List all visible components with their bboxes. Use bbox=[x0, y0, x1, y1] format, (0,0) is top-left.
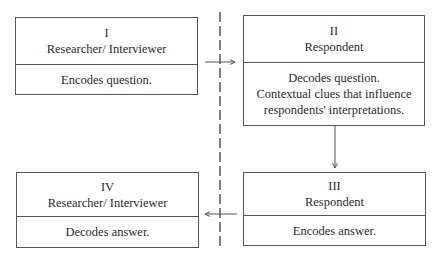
box-ii-line: Decodes question. bbox=[288, 70, 380, 86]
box-iv-body: Decodes answer. bbox=[17, 217, 198, 247]
box-i-researcher: I Researcher/ Interviewer Encodes questi… bbox=[15, 17, 198, 95]
box-iv-researcher: IV Researcher/ Interviewer Decodes answe… bbox=[16, 172, 199, 248]
box-i-header: I Researcher/ Interviewer bbox=[16, 18, 197, 65]
box-ii-body: Decodes question. Contextual clues that … bbox=[244, 63, 424, 125]
box-i-role: Researcher/ Interviewer bbox=[47, 41, 167, 57]
box-i-body: Encodes question. bbox=[16, 65, 197, 94]
box-iii-respondent: III Respondent Encodes answer. bbox=[243, 172, 426, 246]
box-ii-numeral: II bbox=[330, 23, 338, 39]
box-ii-line: Contextual clues that influence bbox=[256, 86, 411, 102]
box-ii-line: respondents' interpretations. bbox=[264, 102, 404, 118]
box-iii-header: III Respondent bbox=[244, 173, 425, 216]
box-ii-respondent: II Respondent Decodes question. Contextu… bbox=[243, 15, 425, 126]
box-iii-role: Respondent bbox=[305, 194, 364, 210]
box-ii-role: Respondent bbox=[304, 39, 363, 55]
box-i-numeral: I bbox=[104, 25, 108, 41]
box-iii-numeral: III bbox=[328, 178, 341, 194]
box-iv-role: Researcher/ Interviewer bbox=[48, 195, 168, 211]
box-iv-header: IV Researcher/ Interviewer bbox=[17, 173, 198, 217]
box-iv-line: Decodes answer. bbox=[66, 224, 150, 240]
box-i-line: Encodes question. bbox=[61, 72, 152, 88]
box-ii-header: II Respondent bbox=[244, 16, 424, 63]
box-iii-line: Encodes answer. bbox=[293, 223, 376, 239]
box-iii-body: Encodes answer. bbox=[244, 216, 425, 245]
box-iv-numeral: IV bbox=[101, 179, 114, 195]
